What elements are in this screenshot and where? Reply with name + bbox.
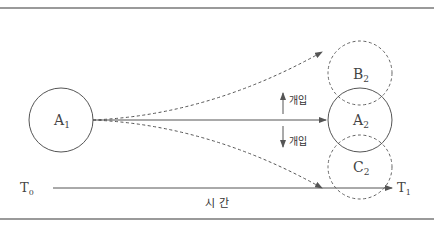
circle-a1: A1 xyxy=(29,88,93,152)
circle-c2: C2 xyxy=(328,135,392,199)
circle-b2-label: B2 xyxy=(353,66,369,84)
arrow-a1-to-c2 xyxy=(93,120,322,188)
time-axis-caption: 시 간 xyxy=(205,197,229,210)
transition-diagram: A1 B2 C2 A2 개입 개입 T0 T1 시 간 xyxy=(0,0,434,227)
intervention-down-label: 개입 xyxy=(289,135,307,147)
arrow-a1-to-b2 xyxy=(93,52,322,120)
time-start-label: T0 xyxy=(20,180,34,197)
circle-a2-label: A2 xyxy=(352,112,369,130)
circle-b2: B2 xyxy=(328,41,392,105)
circle-a2: A2 xyxy=(328,88,392,152)
time-axis: T0 T1 시 간 xyxy=(20,180,411,210)
intervention-up-label: 개입 xyxy=(289,94,307,106)
circle-a1-label: A1 xyxy=(53,112,70,130)
intervention-down: 개입 xyxy=(283,126,307,147)
time-end-label: T1 xyxy=(397,180,411,197)
circle-c2-label: C2 xyxy=(353,159,369,177)
intervention-up: 개입 xyxy=(283,93,307,114)
